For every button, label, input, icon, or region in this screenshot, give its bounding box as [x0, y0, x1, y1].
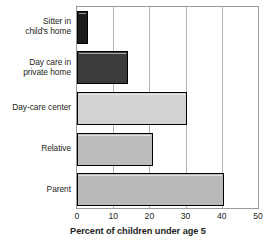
bar-parent: [77, 173, 224, 206]
category-axis-labels: Sitter inchild's homeDay care inprivate …: [0, 6, 71, 209]
bar-highlight: [79, 13, 86, 14]
bar-day-care-center: [77, 92, 187, 125]
bar-highlight: [79, 53, 126, 54]
category-label-line: Parent: [0, 184, 71, 194]
category-label-day-care-in-private-home: Day care inprivate home: [0, 57, 71, 77]
bar-relative: [77, 133, 153, 166]
category-label-day-care-center: Day-care center: [0, 102, 71, 112]
x-tick-label-50: 50: [253, 211, 263, 221]
x-tick-label-30: 30: [181, 211, 191, 221]
x-tick-label-40: 40: [217, 211, 227, 221]
x-tick-label-20: 20: [145, 211, 155, 221]
bar-highlight: [79, 135, 151, 136]
category-label-line: child's home: [0, 26, 71, 36]
x-axis-tick-labels: 01020304050: [76, 209, 259, 225]
category-label-line: Sitter in: [0, 16, 71, 26]
category-label-parent: Parent: [0, 184, 71, 194]
bar-sitter-in-childs-home: [77, 11, 88, 44]
category-label-line: private home: [0, 67, 71, 77]
category-label-relative: Relative: [0, 143, 71, 153]
bar-chart: Sitter inchild's homeDay care inprivate …: [0, 0, 276, 246]
bar-day-care-in-private-home: [77, 51, 128, 84]
x-axis-title: Percent of children under age 5: [0, 226, 276, 236]
x-tick-label-10: 10: [108, 211, 118, 221]
category-label-sitter-in-childs-home: Sitter inchild's home: [0, 16, 71, 36]
plot-area: [76, 6, 259, 209]
bar-highlight: [79, 94, 185, 95]
category-label-line: Day-care center: [0, 102, 71, 112]
x-tick-label-0: 0: [75, 211, 80, 221]
category-label-line: Day care in: [0, 57, 71, 67]
category-label-line: Relative: [0, 143, 71, 153]
bar-highlight: [79, 175, 222, 176]
